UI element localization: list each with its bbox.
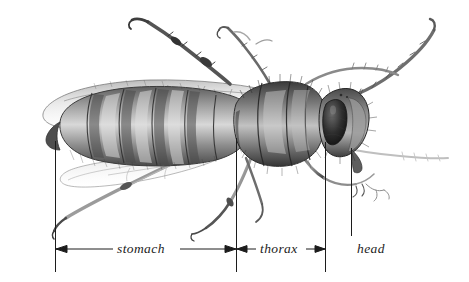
figure-canvas: stomach thorax head	[0, 0, 469, 282]
label-thorax: thorax	[260, 242, 298, 256]
mandible	[352, 150, 362, 173]
head	[319, 82, 377, 173]
raised-appendage-mid	[228, 28, 270, 84]
label-stomach: stomach	[117, 242, 165, 256]
wasp-illustration	[0, 0, 469, 282]
antenna-upper	[306, 68, 398, 84]
label-head: head	[357, 242, 385, 256]
